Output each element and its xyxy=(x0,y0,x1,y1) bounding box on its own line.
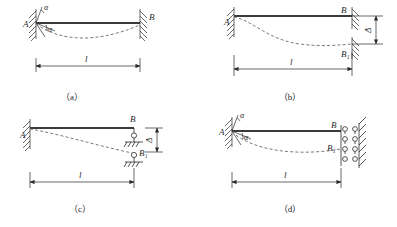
panel-c-span-label: l xyxy=(79,170,82,180)
panel-d: A α α B B₁ xyxy=(218,111,366,214)
panel-c-label-B: B xyxy=(130,114,136,124)
panel-b-label-A: A xyxy=(223,17,230,27)
panel-c-dimension xyxy=(30,168,134,188)
panel-a: A α α B l （a） xyxy=(22,3,155,102)
panel-b-dimension xyxy=(234,52,352,76)
panel-b-delta-label: Δ xyxy=(363,28,373,34)
panel-b: A B B₁ Δ xyxy=(223,5,383,102)
panel-a-dimension xyxy=(36,58,140,72)
panel-b-right-support-original xyxy=(352,7,359,30)
panel-b-right-support-displaced xyxy=(352,37,359,60)
panel-a-left-support xyxy=(29,9,36,41)
panel-d-deflection-curve xyxy=(232,132,341,152)
panel-d-label-B1: B₁ xyxy=(327,143,336,153)
panel-d-span-label: l xyxy=(284,170,287,180)
panel-d-angle-top: α xyxy=(240,111,245,120)
panel-a-right-support xyxy=(140,9,147,41)
panel-a-label-A: A xyxy=(22,19,29,29)
panel-b-label-B1: B₁ xyxy=(341,49,350,59)
panel-c-delta-label: Δ xyxy=(144,138,154,144)
panel-c-deflection-curve xyxy=(30,129,132,153)
panel-c-support-B xyxy=(124,128,143,147)
beam-support-diagram: A α α B l （a） xyxy=(0,0,397,227)
panel-a-angle-top: α xyxy=(44,3,49,12)
panel-d-caption: （d） xyxy=(279,204,302,214)
panel-a-caption: （a） xyxy=(61,92,83,102)
panel-a-label-B: B xyxy=(149,12,155,22)
panel-b-label-B: B xyxy=(341,5,347,15)
panel-b-span-label: l xyxy=(290,57,293,67)
panel-a-span-label: l xyxy=(85,54,88,64)
panel-d-left-support xyxy=(225,117,232,149)
panel-c-caption: （c） xyxy=(69,204,91,214)
panel-b-caption: （b） xyxy=(279,92,302,102)
panel-c-label-B1: B₁ xyxy=(139,148,148,158)
panel-d-label-B: B xyxy=(331,120,337,130)
panel-c: A B B₁ xyxy=(19,114,163,214)
panel-c-label-A: A xyxy=(19,130,26,140)
panel-d-roller-guide xyxy=(341,117,366,168)
panel-d-label-A: A xyxy=(218,127,225,137)
panel-b-deflection-curve xyxy=(234,17,352,46)
